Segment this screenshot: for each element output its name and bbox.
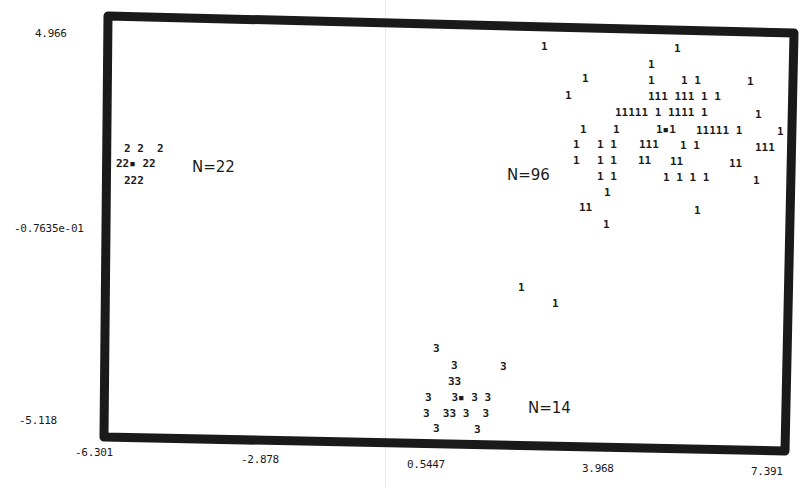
cluster-3-marker: 3 <box>433 423 440 434</box>
cluster-1-marker: 1 <box>565 90 572 101</box>
cluster-1-marker: 1 <box>755 109 762 120</box>
cluster-1-marker: 1 <box>777 126 784 137</box>
cluster-count-label: N=14 <box>528 399 571 417</box>
x-tick-label: 7.391 <box>751 465 783 478</box>
cluster-1-marker: 1 <box>603 219 610 230</box>
y-tick-label: -0.7635e-01 <box>14 222 84 235</box>
cluster-1-marker: 1 1 <box>681 75 701 86</box>
cluster-1-marker: 111 <box>755 142 775 153</box>
cluster-1-marker: 1 <box>552 298 559 309</box>
cluster-3-marker: 3 <box>500 361 507 372</box>
cluster-1-marker: 1 1 <box>597 139 617 150</box>
cluster-1-marker: 11 <box>729 158 742 169</box>
cluster-1-marker: 1 <box>648 75 655 86</box>
cluster-1-marker: 1 <box>573 155 580 166</box>
cluster-1-marker: 11 <box>579 202 592 213</box>
cluster-1-marker: 111 <box>639 139 659 150</box>
cluster-1-marker: 1 <box>747 76 754 87</box>
cluster-1-marker: 111 111 1 1 <box>648 91 721 102</box>
y-tick-label: -5.118 <box>19 414 57 427</box>
cluster-1-marker: 1 <box>541 41 548 52</box>
cluster-1-marker: 1 <box>580 124 587 135</box>
cluster-1-marker: 1 <box>674 43 681 54</box>
x-tick-label: 3.968 <box>582 462 614 475</box>
cluster-3-marker: 3 33 3 3 <box>423 408 489 419</box>
cluster-1-marker: 1 <box>648 59 655 70</box>
cluster-1-marker: 1 1 1 1 <box>663 172 709 183</box>
cluster-1-marker: 11111 1 1111 1 <box>615 107 708 118</box>
cluster-3-marker: 3 3▪ 3 3 <box>425 392 491 403</box>
cluster-1-marker: 1 1 <box>680 140 700 151</box>
cluster-1-marker: 1 1 <box>597 155 617 166</box>
cluster-1-marker: 1 <box>604 187 611 198</box>
cluster-1-marker: 1 <box>518 282 525 293</box>
cluster-1-marker: 11 <box>638 155 651 166</box>
cluster-2-marker: 2 2 2 <box>124 143 164 154</box>
y-tick-label: 4.966 <box>35 27 67 40</box>
cluster-3-marker: 3 <box>451 360 458 371</box>
cluster-2-marker: 22▪ 22 <box>116 158 156 169</box>
cluster-3-marker: 3 <box>433 343 440 354</box>
cluster-1-marker: 1 1 <box>597 171 617 182</box>
cluster-count-label: N=22 <box>192 158 235 176</box>
cluster-2-marker: 222 <box>124 175 144 186</box>
x-tick-label: 0.5447 <box>407 458 445 471</box>
cluster-1-marker: 11111 1 <box>696 125 742 136</box>
cluster-1-marker: 1 <box>753 175 760 186</box>
x-tick-label: -6.301 <box>75 446 113 459</box>
cluster-count-label: N=96 <box>507 166 550 184</box>
cluster-1-marker: 1▪1 <box>656 124 676 135</box>
cluster-1-marker: 1 <box>694 205 701 216</box>
cluster-3-marker: 3 <box>474 424 481 435</box>
x-tick-label: -2.878 <box>241 453 279 466</box>
cluster-1-marker: 1 <box>573 139 580 150</box>
cluster-1-marker: 1 <box>613 124 620 135</box>
cluster-3-marker: 33 <box>448 376 461 387</box>
cluster-1-marker: 11 <box>670 156 683 167</box>
cluster-1-marker: 1 <box>582 73 589 84</box>
